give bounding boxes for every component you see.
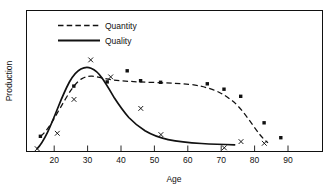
x-tick-label: 20 [49,155,59,165]
production-vs-age-chart: 20 30 40 50 60 70 80 90 Age Production [0,0,333,189]
x-tick-label: 40 [116,155,126,165]
quantity-point [206,82,209,85]
quantity-point [159,81,162,84]
legend-label-quantity: Quantity [105,21,137,31]
quantity-point [239,95,242,98]
x-tick-label: 80 [250,155,260,165]
quantity-point [39,135,42,138]
y-axis-title: Production [4,60,14,101]
x-tick-label: 60 [183,155,193,165]
quantity-point [72,84,75,87]
x-axis-tick-labels: 20 30 40 50 60 70 80 90 [49,155,293,165]
chart-container: 20 30 40 50 60 70 80 90 Age Production [0,0,333,189]
x-axis-title: Age [166,174,181,184]
x-tick-label: 70 [216,155,226,165]
quantity-point [106,80,109,83]
x-tick-label: 90 [283,155,293,165]
quantity-point [126,69,129,72]
x-tick-label: 50 [150,155,160,165]
legend-label-quality: Quality [105,36,132,46]
quantity-point [139,79,142,82]
quantity-point [262,121,265,124]
x-tick-label: 30 [83,155,93,165]
quantity-point [279,136,282,139]
quantity-point [222,88,225,91]
